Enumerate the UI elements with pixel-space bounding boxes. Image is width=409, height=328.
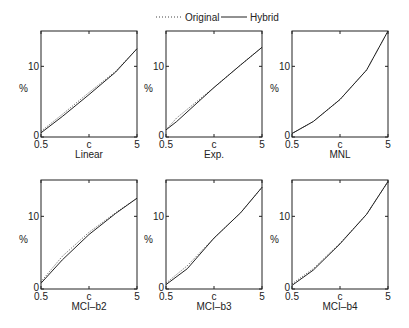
series-hybrid (292, 31, 388, 134)
panel-mnl: 0.5c5010%MNL (270, 31, 391, 160)
y-tick-label: 10 (153, 211, 165, 222)
series-original (166, 187, 262, 283)
x-axis-label: MCI–b4 (322, 301, 357, 312)
panel-mci-b4: 0.5c5010%MCI–b4 (270, 180, 391, 312)
y-axis-label: % (144, 83, 153, 94)
x-tick-label: 5 (385, 291, 391, 302)
y-tick-label: 10 (28, 211, 40, 222)
figure: Original Hybrid 0.5c5010%Linear0.5c5010%… (0, 0, 409, 328)
x-axis-label: Exp. (204, 149, 224, 160)
series-original (41, 198, 137, 282)
y-axis-label: % (19, 234, 28, 245)
y-tick-label: 0 (158, 282, 164, 293)
y-axis-label: % (19, 83, 28, 94)
y-tick-label: 10 (279, 61, 291, 72)
series-original (292, 31, 388, 134)
y-tick-label: 10 (153, 61, 165, 72)
x-tick-label: 5 (134, 139, 140, 150)
series-original (292, 182, 388, 284)
axes-box (41, 31, 137, 137)
x-tick-label: 5 (134, 291, 140, 302)
y-tick-label: 0 (284, 130, 290, 141)
y-tick-label: 0 (33, 130, 39, 141)
series-original (41, 49, 137, 132)
y-axis-label: % (270, 234, 279, 245)
x-axis-label: MCI–b2 (71, 301, 106, 312)
legend: Original Hybrid (156, 12, 279, 23)
y-tick-label: 0 (158, 130, 164, 141)
x-axis-label: Linear (75, 149, 103, 160)
y-tick-label: 10 (28, 61, 40, 72)
legend-original-label: Original (185, 12, 219, 23)
x-tick-label: 5 (259, 291, 265, 302)
axes-box (166, 180, 262, 289)
panel-mci-b3: 0.5c5010%MCI–b3 (144, 180, 265, 312)
y-tick-label: 10 (279, 211, 291, 222)
series-hybrid (166, 47, 262, 130)
series-hybrid (41, 198, 137, 283)
x-tick-label: 5 (259, 139, 265, 150)
y-axis-label: % (270, 83, 279, 94)
x-axis-label: MNL (329, 149, 351, 160)
y-tick-label: 0 (33, 282, 39, 293)
axes-box (166, 31, 262, 137)
axes-box (292, 180, 388, 289)
x-axis-label: MCI–b3 (196, 301, 231, 312)
series-hybrid (166, 187, 262, 284)
y-tick-label: 0 (284, 282, 290, 293)
panel-mci-b2: 0.5c5010%MCI–b2 (19, 180, 140, 312)
x-tick-label: 5 (385, 139, 391, 150)
series-hybrid (292, 182, 388, 286)
axes-box (292, 31, 388, 137)
legend-hybrid-label: Hybrid (250, 12, 279, 23)
panel-exp-: 0.5c5010%Exp. (144, 31, 265, 160)
y-axis-label: % (144, 234, 153, 245)
panel-linear: 0.5c5010%Linear (19, 31, 140, 160)
